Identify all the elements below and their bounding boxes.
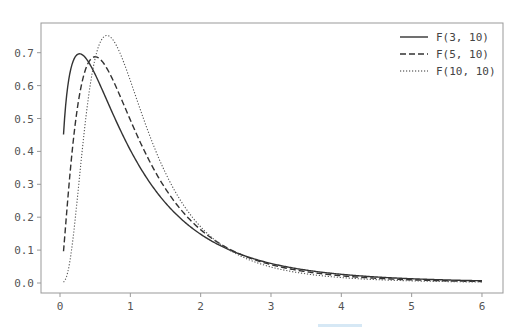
y-axis-ticks: 0.00.10.20.30.40.50.60.7 [14, 47, 41, 290]
legend-label: F(3, 10) [436, 31, 489, 44]
y-tick-label: 0.2 [14, 211, 34, 224]
series-line [64, 57, 482, 282]
x-axis-ticks: 0123456 [57, 293, 486, 313]
f-distribution-chart: 0123456 0.00.10.20.30.40.50.60.7 F(3, 10… [0, 0, 514, 329]
caption-highlight [318, 324, 362, 327]
x-tick-label: 6 [479, 300, 486, 313]
y-tick-label: 0.0 [14, 277, 34, 290]
series-lines [64, 35, 482, 282]
x-tick-label: 4 [338, 300, 345, 313]
axes-frame [41, 23, 503, 293]
y-tick-label: 0.3 [14, 178, 34, 191]
x-tick-label: 2 [197, 300, 204, 313]
x-tick-label: 1 [127, 300, 134, 313]
y-tick-label: 0.5 [14, 113, 34, 126]
x-tick-label: 3 [268, 300, 275, 313]
legend-label: F(10, 10) [436, 65, 496, 78]
series-line [64, 54, 482, 281]
series-line [64, 35, 482, 282]
legend: F(3, 10)F(5, 10)F(10, 10) [400, 31, 496, 78]
x-tick-label: 5 [408, 300, 415, 313]
y-tick-label: 0.1 [14, 244, 34, 257]
x-tick-label: 0 [57, 300, 64, 313]
y-tick-label: 0.7 [14, 47, 34, 60]
legend-label: F(5, 10) [436, 48, 489, 61]
y-tick-label: 0.4 [14, 145, 34, 158]
y-tick-label: 0.6 [14, 80, 34, 93]
